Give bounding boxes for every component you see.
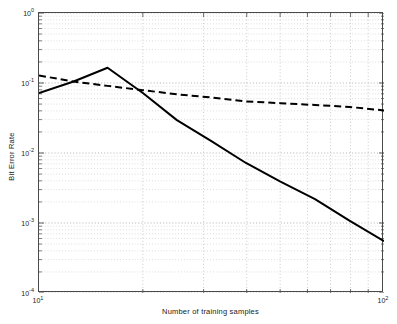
figure: 10010-110-210-310-4 Bit Error Rate Numbe…	[0, 0, 397, 324]
y-tick-label: 10-1	[21, 77, 34, 86]
y-axis-title: Bit Error Rate	[7, 117, 16, 197]
y-axis-tick-labels: 10010-110-210-310-4	[0, 0, 34, 324]
dashed-curve	[39, 76, 384, 111]
x-tick-label: 102	[378, 295, 389, 304]
y-tick-label: 100	[23, 7, 34, 16]
data-curves	[39, 13, 384, 293]
y-tick-label: 10-3	[21, 217, 34, 226]
x-tick-label: 101	[33, 295, 44, 304]
y-axis-title-text: Bit Error Rate	[7, 132, 16, 180]
solid-curve	[39, 68, 384, 241]
x-axis-title: Number of training samples	[38, 307, 383, 316]
x-axis-title-text: Number of training samples	[162, 307, 259, 316]
y-tick-label: 10-2	[21, 147, 34, 156]
plot-area	[38, 12, 383, 292]
